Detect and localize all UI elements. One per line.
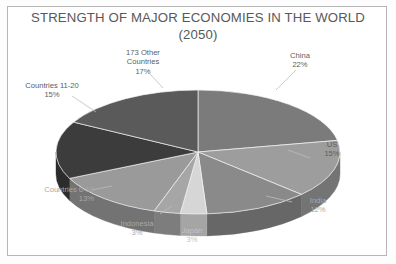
slice-label-china: China 22% bbox=[272, 51, 328, 70]
slice-label-countries-11-20: Countries 11-20 15% bbox=[10, 81, 94, 100]
slice-label-us: US 15% bbox=[312, 140, 352, 159]
pie-chart bbox=[0, 0, 396, 264]
slice-label-countries-6-10: Countries 6-10 13% bbox=[14, 185, 94, 204]
chart-card: STRENGTH OF MAJOR ECONOMIES IN THE WORLD… bbox=[0, 0, 396, 264]
leader-line-china bbox=[276, 70, 296, 90]
pie-svg bbox=[0, 0, 396, 264]
slice-label-japan: Japan 3% bbox=[168, 226, 216, 245]
slice-label-indonesia: Indonesia 3% bbox=[106, 219, 168, 238]
slice-label-india: India 12% bbox=[294, 196, 342, 215]
slice-label-other-countries: 173 Other Countries 17% bbox=[104, 48, 182, 76]
